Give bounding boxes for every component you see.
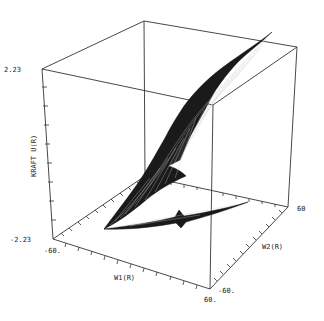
y-max-label: 60 [297,205,305,213]
y-min-label: -60. [218,287,235,295]
z-min-label: -2.23 [10,236,31,244]
z-axis-title: KRAFT U(R) [30,135,38,177]
z-max-label: 2.23 [4,66,21,74]
plot-canvas: 2.23 -2.23 KRAFT U(R) -60. W1(R) 60. -60… [0,0,324,321]
surface-plot: 2.23 -2.23 KRAFT U(R) -60. W1(R) 60. -60… [0,0,324,321]
x-min-label: -60. [44,247,61,255]
x-axis-ticks [65,243,197,289]
surface-mesh [104,32,272,229]
y-axis-title: W2(R) [262,243,283,251]
back-bottom-ticks [158,179,275,207]
x-axis-title: W1(R) [114,274,135,282]
x-max-label: 60. [204,296,217,304]
